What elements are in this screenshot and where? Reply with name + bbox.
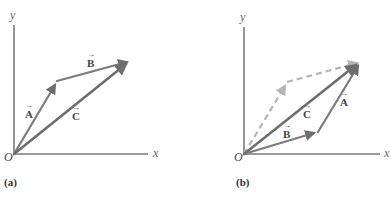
- vector-label-b-b: → B: [283, 128, 290, 140]
- y-axis-label-a: y: [10, 8, 15, 23]
- panel-caption-a: (a): [4, 176, 17, 188]
- panel-caption-b: (b): [236, 176, 249, 188]
- origin-label-a: O: [4, 150, 13, 165]
- y-axis-label-b: y: [240, 10, 245, 25]
- vector-label-b-a: → B: [87, 57, 94, 69]
- x-axis-label-a: x: [153, 146, 158, 161]
- x-axis-label-b: x: [384, 146, 389, 161]
- panel-b: [244, 27, 380, 154]
- arrow-over-icon: →: [72, 103, 80, 112]
- vector-label-a-a: → A: [25, 108, 33, 120]
- arrow-over-icon: →: [87, 50, 94, 59]
- arrow-over-icon: →: [25, 101, 33, 110]
- vector-label-c-b: → C: [303, 108, 311, 120]
- arrow-over-icon: →: [340, 89, 348, 98]
- origin-label-b: O: [234, 150, 243, 165]
- vector-label-c-a: → C: [72, 110, 80, 122]
- vector-a: [14, 85, 55, 154]
- vector-label-a-b: → A: [340, 96, 348, 108]
- arrow-over-icon: →: [303, 101, 311, 110]
- arrow-over-icon: →: [283, 121, 290, 130]
- vector-addition-diagram: [0, 0, 391, 198]
- panel-a: [14, 25, 148, 154]
- vector-a: [318, 66, 358, 132]
